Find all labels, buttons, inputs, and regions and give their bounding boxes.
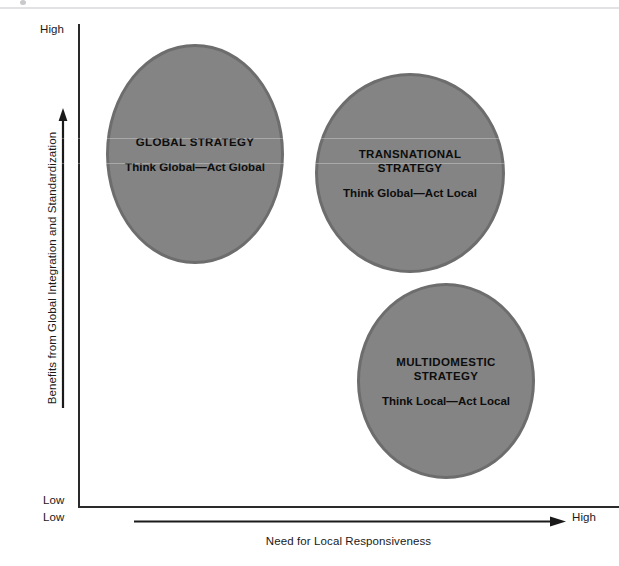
bubble-transnational-strategy[interactable]: TRANSNATIONAL STRATEGY Think Global—Act …: [315, 73, 505, 273]
bubble-global-strategy[interactable]: GLOBAL STRATEGY Think Global—Act Global: [106, 44, 284, 264]
page-top-rule: [0, 7, 619, 9]
y-axis-line: [78, 24, 80, 508]
bubble-transnational-strategy-title: TRANSNATIONAL STRATEGY: [326, 147, 494, 175]
scan-streak-lower: [0, 163, 619, 164]
bubble-transnational-strategy-subtitle: Think Global—Act Local: [326, 186, 494, 200]
y-axis-arrow-icon: [58, 108, 68, 408]
bubble-multidomestic-strategy-title: MULTIDOMESTIC STRATEGY: [368, 355, 524, 383]
x-axis-low-label: Low: [43, 511, 64, 523]
x-axis-high-label: High: [572, 511, 596, 523]
bubble-global-strategy-subtitle: Think Global—Act Global: [117, 160, 273, 174]
x-axis-line: [78, 506, 619, 508]
bubble-transnational-strategy-content: TRANSNATIONAL STRATEGY Think Global—Act …: [318, 147, 502, 200]
scan-artifact-speck: [20, 0, 26, 5]
y-axis-high-label: High: [40, 23, 64, 35]
y-axis-title: Benefits from Global Integration and Sta…: [46, 128, 58, 408]
bubble-global-strategy-content: GLOBAL STRATEGY Think Global—Act Global: [109, 135, 281, 174]
scan-streak-upper: [0, 138, 619, 139]
y-axis-low-label: Low: [43, 494, 64, 506]
bubble-multidomestic-strategy-content: MULTIDOMESTIC STRATEGY Think Local—Act L…: [360, 355, 532, 408]
x-axis-arrow-icon: [134, 513, 566, 524]
x-axis-title: Need for Local Responsiveness: [78, 535, 619, 547]
bubble-multidomestic-strategy-subtitle: Think Local—Act Local: [368, 394, 524, 408]
strategy-matrix-figure: High Low Low High Benefits from Global I…: [0, 0, 619, 566]
bubble-multidomestic-strategy[interactable]: MULTIDOMESTIC STRATEGY Think Local—Act L…: [357, 283, 535, 479]
bubble-global-strategy-title: GLOBAL STRATEGY: [117, 135, 273, 149]
